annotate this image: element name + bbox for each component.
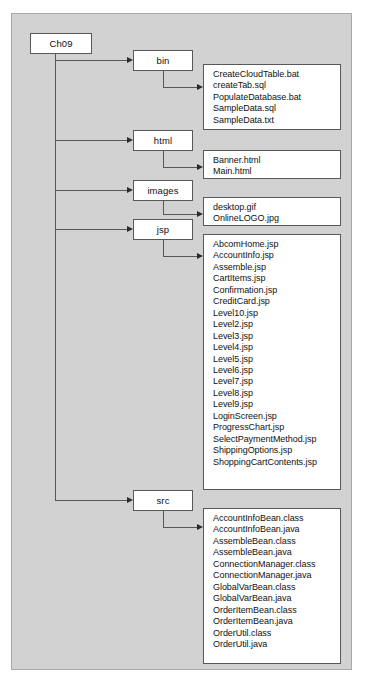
list-item: GlobalVarBean.java bbox=[213, 593, 340, 604]
list-item: LoginScreen.jsp bbox=[213, 411, 340, 422]
elbow-v-jsp bbox=[163, 240, 164, 256]
list-item: Level9.jsp bbox=[213, 399, 340, 410]
elbow-v-bin bbox=[163, 71, 164, 87]
list-item: OrderUtil.class bbox=[213, 628, 340, 639]
list-item: ConnectionManager.class bbox=[213, 559, 340, 570]
list-item: Level10.jsp bbox=[213, 308, 340, 319]
node-bin-label: bin bbox=[157, 55, 170, 66]
trunk-line bbox=[55, 54, 56, 500]
list-item: ConnectionManager.java bbox=[213, 570, 340, 581]
node-ch09[interactable]: Ch09 bbox=[30, 33, 92, 54]
branch-line-html bbox=[55, 140, 128, 141]
list-item: Main.html bbox=[213, 166, 340, 177]
list-item: desktop.gif bbox=[213, 202, 340, 213]
node-jsp-label: jsp bbox=[157, 224, 169, 235]
list-item: OrderUtil.java bbox=[213, 639, 340, 650]
list-item: OnlineLOGO.jpg bbox=[213, 213, 340, 224]
list-item: GlobalVarBean.class bbox=[213, 582, 340, 593]
elbow-v-html bbox=[163, 151, 164, 167]
list-item: AssembleBean.java bbox=[213, 547, 340, 558]
list-item: AbcomHome.jsp bbox=[213, 239, 340, 250]
list-item: CreateCloudTable.bat bbox=[213, 69, 340, 80]
list-item: Confirmation.jsp bbox=[213, 285, 340, 296]
filelist-src: AccountInfoBean.class AccountInfoBean.ja… bbox=[203, 508, 341, 664]
elbow-v-src bbox=[163, 511, 164, 527]
list-item: OrderItemBean.java bbox=[213, 616, 340, 627]
list-item: SampleData.txt bbox=[213, 115, 340, 126]
elbow-h-src bbox=[163, 527, 198, 528]
elbow-h-images bbox=[163, 214, 198, 215]
list-item: Level3.jsp bbox=[213, 331, 340, 342]
elbow-h-html bbox=[163, 167, 198, 168]
node-images-label: images bbox=[147, 185, 178, 196]
list-item: Assemble.jsp bbox=[213, 262, 340, 273]
list-item: createTab.sql bbox=[213, 80, 340, 91]
filelist-images: desktop.gif OnlineLOGO.jpg bbox=[203, 197, 341, 226]
list-item: PopulateDatabase.bat bbox=[213, 92, 340, 103]
list-item: AccountInfoBean.java bbox=[213, 524, 340, 535]
filelist-html: Banner.html Main.html bbox=[203, 150, 341, 179]
branch-line-src bbox=[55, 500, 128, 501]
elbow-h-bin bbox=[163, 87, 198, 88]
list-item: OrderItemBean.class bbox=[213, 605, 340, 616]
list-item: Level5.jsp bbox=[213, 354, 340, 365]
elbow-h-jsp bbox=[163, 256, 198, 257]
node-html-label: html bbox=[154, 135, 172, 146]
list-item: Level4.jsp bbox=[213, 342, 340, 353]
list-item: CreditCard.jsp bbox=[213, 296, 340, 307]
list-item: CartItems.jsp bbox=[213, 273, 340, 284]
list-item: Banner.html bbox=[213, 155, 340, 166]
list-item: AssembleBean.class bbox=[213, 536, 340, 547]
node-src-label: src bbox=[157, 495, 170, 506]
list-item: ShoppingCartContents.jsp bbox=[213, 457, 340, 468]
branch-line-bin bbox=[55, 60, 128, 61]
node-ch09-label: Ch09 bbox=[49, 38, 72, 49]
filelist-jsp: AbcomHome.jsp AccountInfo.jsp Assemble.j… bbox=[203, 234, 341, 490]
directory-tree-diagram: Ch09 bin CreateCloudTable.bat createTab.… bbox=[0, 0, 366, 697]
node-html[interactable]: html bbox=[133, 130, 193, 151]
branch-line-images bbox=[55, 190, 128, 191]
list-item: ShippingOptions.jsp bbox=[213, 445, 340, 456]
list-item: Level7.jsp bbox=[213, 376, 340, 387]
list-item: Level8.jsp bbox=[213, 388, 340, 399]
node-src[interactable]: src bbox=[133, 490, 193, 511]
elbow-v-images bbox=[163, 201, 164, 214]
list-item: SampleData.sql bbox=[213, 103, 340, 114]
node-images[interactable]: images bbox=[133, 180, 193, 201]
list-item: Level6.jsp bbox=[213, 365, 340, 376]
branch-line-jsp bbox=[55, 229, 128, 230]
list-item: ProgressChart.jsp bbox=[213, 422, 340, 433]
list-item: Level2.jsp bbox=[213, 319, 340, 330]
filelist-bin: CreateCloudTable.bat createTab.sql Popul… bbox=[203, 64, 341, 130]
list-item: SelectPaymentMethod.jsp bbox=[213, 434, 340, 445]
list-item: AccountInfo.jsp bbox=[213, 250, 340, 261]
node-bin[interactable]: bin bbox=[133, 50, 193, 71]
node-jsp[interactable]: jsp bbox=[133, 219, 193, 240]
list-item: AccountInfoBean.class bbox=[213, 513, 340, 524]
